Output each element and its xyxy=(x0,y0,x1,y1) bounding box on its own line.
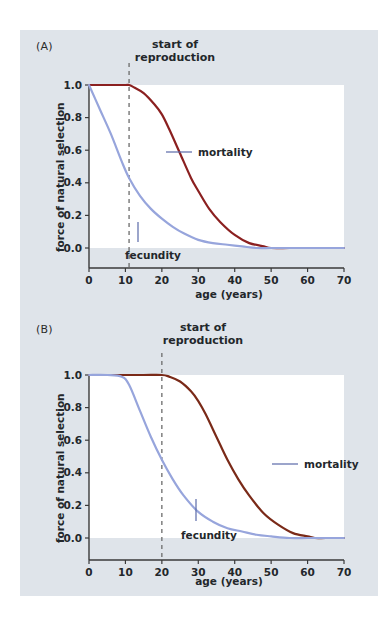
x-tick-label: 10 xyxy=(118,566,133,578)
y-tick-label: 0.4 xyxy=(63,176,82,188)
y-tick-label: 1.0 xyxy=(63,369,82,381)
x-tick-label: 0 xyxy=(85,566,92,578)
x-tick-label: 30 xyxy=(191,566,206,578)
chart-panel-b: (B) start of reproduction force of natur… xyxy=(20,313,378,596)
x-tick-label: 10 xyxy=(118,274,133,286)
y-tick-label: 0.8 xyxy=(63,111,82,123)
chart-panel-a: (A) start of reproduction force of natur… xyxy=(20,30,378,313)
series-label-mortality: mortality xyxy=(304,458,359,470)
plot-area-a: 0.00.20.40.60.81.0010203040506070mortali… xyxy=(20,30,378,290)
figure-panel: (A) start of reproduction force of natur… xyxy=(20,30,378,596)
plot-background xyxy=(89,375,344,538)
y-tick-label: 1.0 xyxy=(63,79,82,91)
y-tick-label: 0.6 xyxy=(63,144,82,156)
x-tick-label: 40 xyxy=(227,566,242,578)
x-tick-label: 50 xyxy=(264,274,279,286)
x-tick-label: 0 xyxy=(85,274,92,286)
series-label-mortality: mortality xyxy=(198,146,253,158)
y-tick-label: 0.2 xyxy=(63,209,82,221)
y-tick-label: 0.8 xyxy=(63,401,82,413)
y-tick-label: 0.0 xyxy=(63,242,82,254)
y-tick-label: 0.0 xyxy=(63,532,82,544)
x-tick-label: 50 xyxy=(264,566,279,578)
series-label-fecundity: fecundity xyxy=(125,249,181,261)
y-tick-label: 0.6 xyxy=(63,434,82,446)
x-tick-label: 40 xyxy=(227,274,242,286)
y-tick-label: 0.2 xyxy=(63,499,82,511)
x-tick-label: 70 xyxy=(337,274,352,286)
x-tick-label: 70 xyxy=(337,566,352,578)
plot-background xyxy=(89,85,344,248)
x-tick-label: 60 xyxy=(300,274,315,286)
y-tick-label: 0.4 xyxy=(63,466,82,478)
series-label-fecundity: fecundity xyxy=(181,529,237,541)
plot-area-b: 0.00.20.40.60.81.0010203040506070mortali… xyxy=(20,313,378,581)
x-tick-label: 20 xyxy=(155,274,170,286)
x-tick-label: 60 xyxy=(300,566,315,578)
x-tick-label: 30 xyxy=(191,274,206,286)
x-tick-label: 20 xyxy=(155,566,170,578)
